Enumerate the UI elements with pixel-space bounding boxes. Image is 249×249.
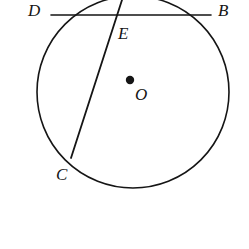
geometry-figure: D B E O C (0, 0, 249, 249)
circle-outline (37, 0, 229, 188)
point-label-d: D (28, 2, 40, 19)
point-label-e: E (118, 25, 128, 42)
point-label-o: O (135, 86, 147, 103)
point-label-b: B (218, 2, 228, 19)
secant-ce-line (71, 0, 122, 158)
center-dot (126, 76, 134, 84)
point-label-c: C (56, 166, 67, 183)
